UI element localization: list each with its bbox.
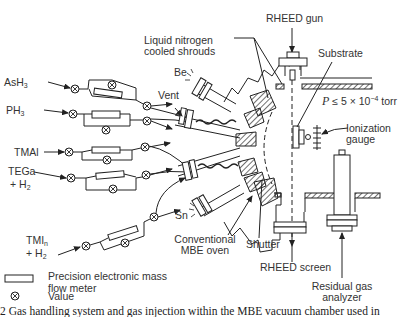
label-ph3: PH3 [6,105,25,119]
label-shrouds-2: cooled shrouds [144,46,215,57]
label-sn: Sn [175,210,188,221]
residual-gas-analyzer [327,150,357,278]
gas-line-tega [34,169,190,193]
label-tmin-h2: + H2 [26,248,47,262]
label-ash3: AsH3 [4,77,28,91]
label-ionization-2: gauge [346,134,375,145]
cryoshrouds [236,90,278,206]
rheed-screen [274,205,306,262]
label-rheed-screen: RHEED screen [260,262,331,273]
be-oven [185,69,236,112]
label-be: Be [174,67,187,78]
label-mbe-oven-2: MBE oven [170,245,240,256]
valve-icon [11,292,19,300]
label-vent: Vent [158,90,179,101]
label-rheed-gun: RHEED gun [266,13,323,24]
label-tmal: TMAl [14,147,39,158]
label-substrate: Substrate [318,48,363,59]
sn-oven [189,185,244,217]
leader-lines [175,38,282,238]
label-tega-h2: + H2 [10,179,31,193]
ionization-gauge [313,125,348,150]
label-tega: TEGa [8,166,35,177]
mass-flow-meter-icon [5,275,33,282]
label-pressure: P ≤ 5 × 10−4 torr [322,93,397,107]
gas-injectors [175,108,240,181]
shutter-arc [264,112,272,184]
gas-line-tmal [44,143,190,170]
label-shutter: Shutter [246,239,280,250]
gas-line-ph3 [44,110,190,134]
legend-icons [5,275,33,300]
label-rga-2: analyzer [306,292,378,303]
legend-mfm-line1: Precision electronic mass [48,270,167,282]
legend-valve: Value [48,290,74,302]
figure-caption: 2 Gas handling system and gas injection … [0,305,380,317]
